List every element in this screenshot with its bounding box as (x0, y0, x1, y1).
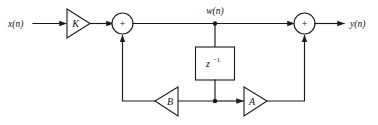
label-gain-k: K (71, 18, 80, 29)
label-delay-base: z (205, 58, 210, 69)
label-summer-right-plus: + (302, 18, 308, 29)
signal-flow-diagram: x(n) w(n) y(n) K B A + + z −1 (0, 0, 378, 125)
label-gain-b: B (167, 96, 173, 107)
gain-a-triangle (244, 87, 267, 116)
wire-gain-a-to-summer-right (267, 36, 305, 102)
diagram-canvas: x(n) w(n) y(n) K B A + + z −1 (0, 0, 378, 125)
label-delay-exponent: −1 (213, 56, 220, 63)
delay-block (196, 47, 235, 80)
label-output-signal: y(n) (349, 19, 365, 30)
label-gain-a: A (248, 96, 256, 107)
label-intermediate-signal: w(n) (206, 6, 223, 17)
wire-gain-b-to-summer-left (123, 36, 156, 102)
label-summer-left-plus: + (120, 18, 126, 29)
label-input-signal: x(n) (7, 19, 23, 30)
